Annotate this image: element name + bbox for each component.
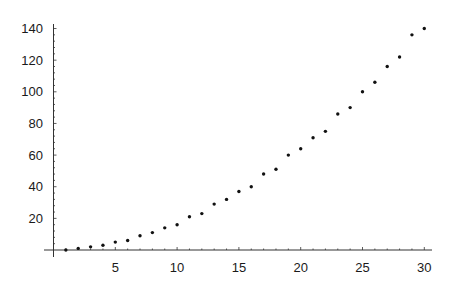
data-point	[126, 239, 129, 242]
x-tick-label: 10	[170, 260, 184, 275]
data-point	[151, 231, 154, 234]
data-point	[77, 247, 80, 250]
data-point	[398, 55, 401, 58]
data-point	[324, 130, 327, 133]
data-point	[336, 112, 339, 115]
data-point	[212, 202, 215, 205]
data-point	[200, 212, 203, 215]
y-tick-label: 100	[21, 84, 43, 99]
data-point	[410, 33, 413, 36]
data-point	[311, 136, 314, 139]
data-point	[386, 65, 389, 68]
y-tick-label: 120	[21, 53, 43, 68]
x-tick-label: 15	[232, 260, 246, 275]
data-point	[188, 215, 191, 218]
data-point	[250, 185, 253, 188]
data-points	[64, 27, 426, 252]
data-point	[237, 190, 240, 193]
y-axis-ticks: 20406080100120140	[21, 21, 56, 244]
y-tick-label: 80	[29, 116, 43, 131]
y-tick-label: 140	[21, 21, 43, 36]
data-point	[361, 90, 364, 93]
data-point	[64, 248, 67, 251]
data-point	[163, 226, 166, 229]
data-point	[287, 153, 290, 156]
data-point	[175, 223, 178, 226]
x-tick-label: 30	[417, 260, 431, 275]
x-tick-label: 20	[293, 260, 307, 275]
y-tick-label: 40	[29, 179, 43, 194]
data-point	[114, 240, 117, 243]
x-tick-label: 5	[112, 260, 119, 275]
data-point	[89, 245, 92, 248]
data-point	[274, 168, 277, 171]
data-point	[423, 27, 426, 30]
y-tick-label: 20	[29, 211, 43, 226]
data-point	[348, 106, 351, 109]
data-point	[262, 172, 265, 175]
data-point	[225, 198, 228, 201]
y-tick-label: 60	[29, 148, 43, 163]
data-point	[299, 147, 302, 150]
data-point	[138, 234, 141, 237]
data-point	[101, 244, 104, 247]
axes	[44, 24, 432, 257]
x-axis-ticks: 51015202530	[66, 247, 432, 275]
data-point	[373, 81, 376, 84]
x-tick-label: 25	[355, 260, 369, 275]
scatter-chart: 51015202530 20406080100120140	[0, 0, 455, 281]
